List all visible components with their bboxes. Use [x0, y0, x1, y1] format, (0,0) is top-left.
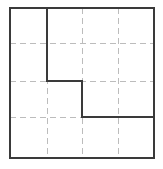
figure-container [0, 0, 163, 169]
grid-figure-svg [0, 0, 163, 169]
